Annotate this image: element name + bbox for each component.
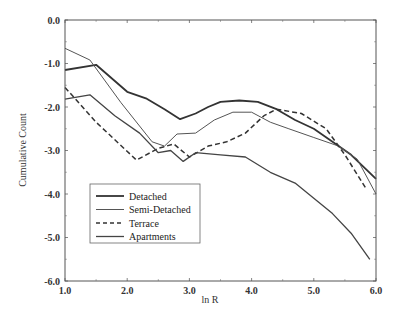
- x-tick-label: 5.0: [308, 285, 321, 296]
- x-tick-label: 4.0: [245, 285, 258, 296]
- legend-label: Semi-Detached: [129, 204, 191, 215]
- legend-label: Apartments: [129, 231, 176, 242]
- series-line-terrace: [65, 87, 367, 189]
- y-tick-label: -5.0: [44, 232, 60, 243]
- series-line-detached: [65, 65, 376, 179]
- y-tick-label: -1.0: [44, 58, 60, 69]
- y-tick-label: -6.0: [44, 276, 60, 287]
- legend-label: Terrace: [129, 218, 159, 229]
- y-tick-label: 0.0: [48, 15, 61, 26]
- x-tick-label: 3.0: [183, 285, 196, 296]
- x-axis-ticks: 1.02.03.04.05.06.0: [59, 20, 383, 296]
- x-axis-label: ln R: [202, 294, 219, 305]
- x-tick-label: 1.0: [59, 285, 72, 296]
- x-tick-label: 2.0: [121, 285, 134, 296]
- line-chart: 0.0-1.0-2.0-3.0-4.0-5.0-6.0 1.02.03.04.0…: [0, 0, 401, 329]
- legend-label: Detached: [129, 191, 167, 202]
- y-tick-label: -3.0: [44, 145, 60, 156]
- y-axis-label: Cumulative Count: [17, 113, 28, 187]
- y-tick-label: -2.0: [44, 102, 60, 113]
- series-line-semi-detached: [65, 48, 376, 194]
- legend: DetachedSemi-DetachedTerraceApartments: [90, 184, 200, 243]
- x-tick-label: 6.0: [370, 285, 383, 296]
- y-axis-ticks: 0.0-1.0-2.0-3.0-4.0-5.0-6.0: [44, 15, 376, 287]
- y-tick-label: -4.0: [44, 189, 60, 200]
